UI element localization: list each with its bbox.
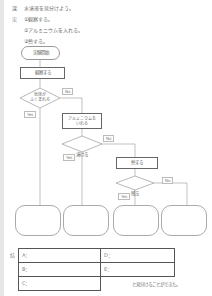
answer-cell-e-label: E： — [104, 266, 112, 272]
decision-1-line2: ふくまれる — [22, 97, 58, 102]
answer-cell-c-label: C： — [22, 280, 31, 286]
answer-cell-b[interactable]: B： — [18, 262, 101, 277]
decision-1-no-tag: No — [62, 88, 73, 95]
decision-2-no-tag: No — [103, 135, 114, 142]
decision-1-yes-tag: Yes — [24, 111, 36, 118]
start-terminal: 実験開始 — [21, 46, 60, 60]
decision-2-label: 溶ける — [76, 152, 88, 157]
process-add-aluminum: アルミニウムを いれる — [62, 113, 102, 129]
decision-3-label: 残る — [131, 191, 139, 196]
answer-cell-b-label: B： — [22, 266, 30, 272]
start-label: 実験開始 — [33, 50, 49, 56]
process-heat-label: 熱する — [131, 160, 143, 166]
process-add-aluminum-line2: いれる — [76, 121, 88, 126]
result-box-2[interactable] — [63, 205, 109, 236]
answer-mark: 結 — [10, 252, 15, 258]
result-box-4[interactable] — [161, 205, 207, 236]
process-observe: 観察する — [20, 67, 65, 79]
result-box-1[interactable] — [15, 205, 61, 236]
answer-cell-a[interactable]: A： — [18, 248, 101, 263]
answer-cell-d[interactable]: D： — [100, 248, 175, 263]
decision-3-no-tag: No — [162, 177, 173, 184]
answer-cell-a-label: A： — [22, 252, 30, 258]
answer-cell-c[interactable]: C： — [18, 276, 101, 291]
answer-cell-e[interactable]: E： — [100, 262, 175, 277]
decision-3-yes-tag: Yes — [118, 193, 130, 200]
answer-cell-d-label: D： — [104, 252, 113, 258]
process-observe-label: 観察する — [35, 70, 51, 76]
decision-1-text: 気体が ふくまれる — [22, 92, 58, 102]
process-heat: 熱する — [116, 157, 158, 169]
decision-2-yes-tag: Yes — [63, 154, 75, 161]
result-box-3[interactable] — [113, 205, 159, 236]
answer-conclusion: と見分けることができた。 — [132, 282, 180, 288]
